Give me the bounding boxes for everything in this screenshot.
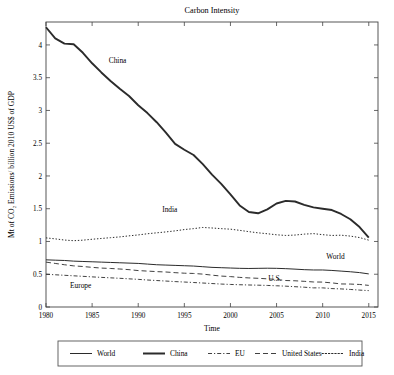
x-tick-label: 1995 [177,312,192,320]
y-tick-label: 1 [38,238,42,246]
chart-title: Carbon Intensity [185,6,241,15]
y-tick-label: 0 [38,304,42,312]
y-tick-label: 3.5 [33,74,42,82]
legend-label-world: World [97,349,116,358]
inline-label-india: India [162,205,178,214]
inline-label-world: World [326,252,345,261]
y-axis-label: Mt of CO₂ Emissions/ billion 2010 US$ of… [7,91,16,238]
x-tick-label: 2005 [269,312,284,320]
series-line-india [46,227,369,240]
series-line-united-states [46,262,369,285]
legend-label-united-states: United States [282,349,322,358]
inline-label-u-s-: U.S. [268,274,281,283]
inline-label-china: China [109,56,127,65]
carbon-intensity-chart: Carbon IntensityMt of CO₂ Emissions/ bil… [0,0,394,375]
inline-label-europe: Europe [70,281,92,290]
plot-frame [46,22,378,307]
y-tick-label: 2 [38,173,42,181]
x-tick-label: 1990 [131,312,146,320]
legend-label-china: China [170,349,188,358]
legend-label-india: India [349,349,365,358]
y-tick-label: 4 [38,42,42,50]
x-tick-label: 2015 [362,312,377,320]
x-tick-label: 1980 [39,312,54,320]
x-axis-label: Time [204,324,220,333]
y-tick-label: 3 [38,107,42,115]
legend-label-eu: EU [235,349,246,358]
x-tick-label: 2010 [315,312,330,320]
series-line-china [46,27,369,237]
x-tick-label: 1985 [85,312,100,320]
x-tick-label: 2000 [223,312,238,320]
chart-svg: Carbon IntensityMt of CO₂ Emissions/ bil… [0,0,394,375]
y-tick-label: 2.5 [33,140,42,148]
y-tick-label: 1.5 [33,205,42,213]
series-line-world [46,260,369,274]
y-tick-label: 0.5 [33,271,42,279]
